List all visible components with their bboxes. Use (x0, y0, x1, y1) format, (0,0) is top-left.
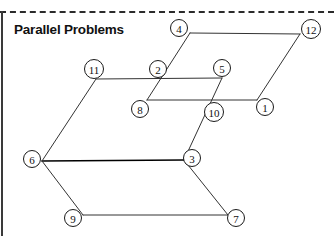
edge-11-5 (96, 78, 222, 79)
node-6[interactable]: 6 (24, 151, 41, 168)
edges-group (42, 33, 300, 215)
node-12[interactable]: 12 (302, 20, 321, 39)
node-11[interactable]: 11 (85, 60, 104, 79)
node-label-7: 7 (233, 213, 239, 225)
edge-12-1 (257, 34, 300, 100)
node-label-4: 4 (176, 23, 182, 35)
edge-3-6 (42, 160, 184, 161)
node-7[interactable]: 7 (228, 210, 245, 227)
node-2[interactable]: 2 (150, 61, 167, 78)
edge-9-6 (42, 161, 83, 215)
node-label-5: 5 (219, 63, 225, 75)
node-4[interactable]: 4 (171, 20, 188, 37)
node-label-11: 11 (89, 64, 100, 76)
node-1[interactable]: 1 (257, 99, 274, 116)
node-3[interactable]: 3 (184, 150, 201, 167)
node-9[interactable]: 9 (65, 210, 82, 227)
node-label-9: 9 (70, 213, 76, 225)
node-label-6: 6 (29, 154, 35, 166)
node-10[interactable]: 10 (205, 103, 224, 122)
node-label-3: 3 (189, 153, 195, 165)
node-label-12: 12 (306, 24, 317, 36)
node-5[interactable]: 5 (214, 60, 231, 77)
node-label-2: 2 (155, 64, 161, 76)
edge-4-12 (190, 33, 300, 34)
figure-canvas: Parallel Problems 123456789101112 (0, 0, 334, 245)
node-8[interactable]: 8 (132, 101, 149, 118)
edge-6-11 (42, 79, 96, 161)
node-label-8: 8 (137, 104, 143, 116)
parallelogram-diagram: 123456789101112 (0, 0, 334, 245)
edge-3-7 (184, 160, 228, 215)
node-label-10: 10 (209, 107, 221, 119)
node-label-1: 1 (262, 102, 268, 114)
